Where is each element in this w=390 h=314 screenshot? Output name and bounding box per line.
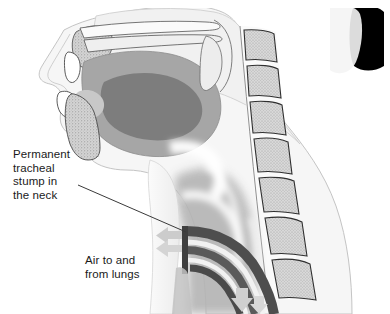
anatomical-figure: Permanent tracheal stump in the neck Air… xyxy=(0,0,390,314)
label-air-to-and-from-lungs: Air to and from lungs xyxy=(85,254,140,281)
stoma-rim xyxy=(182,226,188,274)
label-permanent-tracheal-stump: Permanent tracheal stump in the neck xyxy=(13,148,70,202)
edge-mask-left xyxy=(0,0,8,314)
edge-mask-top xyxy=(0,0,390,8)
edge-mask-right xyxy=(384,0,390,314)
